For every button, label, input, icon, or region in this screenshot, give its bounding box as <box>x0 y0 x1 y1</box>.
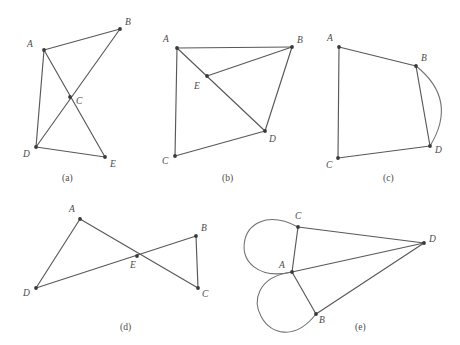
vertex-label-a-A: A <box>26 39 33 49</box>
edge-e-AB <box>292 272 316 314</box>
vertex-c-C <box>336 156 340 160</box>
vertex-label-b-D: D <box>268 134 276 144</box>
panel-caption-a: (a) <box>62 173 73 184</box>
vertex-e-A <box>290 270 294 274</box>
panel-caption-c: (c) <box>383 173 394 184</box>
vertex-label-d-A: A <box>68 204 75 214</box>
vertex-b-C <box>173 154 177 158</box>
edge-b-EB <box>207 47 292 76</box>
edge-b-AB <box>177 47 292 48</box>
edge-c-AB <box>339 47 416 66</box>
vertex-d-D <box>34 286 38 290</box>
vertex-c-D <box>428 144 432 148</box>
vertex-e-B <box>314 312 318 316</box>
vertex-label-e-B: B <box>319 315 325 325</box>
vertex-c-B <box>414 64 418 68</box>
vertex-label-b-C: C <box>162 156 169 166</box>
vertex-label-d-C: C <box>202 289 209 299</box>
figure-container: ABCDEABECDABDCABEDCACBD (a)(b)(c)(d)(e) <box>0 0 460 345</box>
edge-b-BD <box>265 47 292 131</box>
vertex-label-a-C: C <box>76 96 83 106</box>
vertex-label-b-E: E <box>193 81 200 91</box>
vertex-a-B <box>118 27 122 31</box>
vertex-label-e-A: A <box>278 260 285 270</box>
vertex-d-E <box>135 254 139 258</box>
edge-b-CD <box>175 131 265 156</box>
vertex-label-c-D: D <box>434 145 442 155</box>
vertex-label-a-B: B <box>125 17 131 27</box>
edge-d-AD <box>36 219 80 288</box>
edge-e-AC <box>244 220 298 274</box>
edges-layer <box>36 29 441 332</box>
vertex-label-d-B: B <box>201 223 207 233</box>
vertex-b-B <box>290 45 294 49</box>
edge-e-AC <box>292 227 298 272</box>
vertex-label-b-A: A <box>162 34 169 44</box>
vertex-a-D <box>34 145 38 149</box>
vertex-label-c-C: C <box>326 160 333 170</box>
edge-e-AD <box>292 243 424 272</box>
edge-c-CD <box>338 146 430 158</box>
vertex-label-c-B: B <box>421 53 427 63</box>
vertex-label-c-A: A <box>326 33 333 43</box>
edge-a-AB <box>44 29 120 50</box>
vertex-label-a-E: E <box>109 159 116 169</box>
vertex-label-b-B: B <box>297 35 303 45</box>
vertex-a-C <box>68 95 72 99</box>
edge-a-AD <box>36 50 44 147</box>
panel-caption-e: (e) <box>355 322 366 333</box>
vertex-b-D <box>263 129 267 133</box>
panel-caption-d: (d) <box>120 322 131 333</box>
vertex-label-e-D: D <box>428 234 436 244</box>
vertex-b-E <box>205 74 209 78</box>
vertex-e-C <box>296 225 300 229</box>
vertices-layer <box>34 27 432 316</box>
panel-caption-b: (b) <box>222 173 233 184</box>
edge-e-AB <box>257 272 316 332</box>
vertex-label-a-D: D <box>22 149 30 159</box>
vertex-a-A <box>42 48 46 52</box>
edge-a-DE <box>36 147 105 157</box>
vertex-e-D <box>422 241 426 245</box>
edge-a-BD <box>36 29 120 147</box>
edge-a-AE <box>44 50 105 157</box>
panel-captions-layer: (a)(b)(c)(d)(e) <box>62 173 394 333</box>
vertex-d-B <box>194 234 198 238</box>
vertex-label-d-D: D <box>22 288 30 298</box>
edge-d-BC <box>196 236 198 288</box>
edge-c-BD <box>416 66 441 146</box>
edge-d-AC <box>80 219 198 288</box>
edge-e-CD <box>298 227 424 243</box>
vertex-c-A <box>337 45 341 49</box>
vertex-label-e-C: C <box>295 211 302 221</box>
edge-d-DB <box>36 236 196 288</box>
edge-c-AC <box>338 47 339 158</box>
edge-b-AC <box>175 48 177 156</box>
vertex-a-E <box>103 155 107 159</box>
vertex-d-C <box>196 286 200 290</box>
vertex-labels-layer: ABCDEABECDABDCABEDCACBD <box>22 17 442 325</box>
edge-e-BD <box>316 243 424 314</box>
vertex-d-A <box>78 217 82 221</box>
vertex-label-d-E: E <box>129 260 136 270</box>
graph-figure-svg: ABCDEABECDABDCABEDCACBD (a)(b)(c)(d)(e) <box>0 0 460 345</box>
vertex-b-A <box>175 46 179 50</box>
